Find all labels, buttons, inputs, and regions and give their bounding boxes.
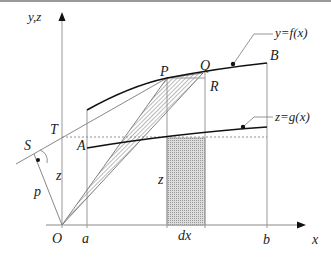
point-B: B [270, 48, 279, 63]
point-A: A [76, 138, 86, 153]
tick-dx: dx [178, 228, 192, 243]
x-axis-arrow-icon [297, 222, 306, 229]
point-Q: Q [200, 58, 210, 73]
diagram-canvas: y,z x O a dx b S T A P Q R B p z z y=f(x… [0, 0, 331, 257]
point-T: T [50, 122, 59, 137]
tick-a: a [82, 231, 89, 246]
strip-area [167, 138, 205, 225]
curve-g-label: z=g(x) [274, 109, 310, 124]
right-angle-arc-icon [40, 150, 47, 163]
curve-g-pointer-icon [241, 125, 245, 129]
label-p: p [33, 184, 41, 199]
curve-f-label: y=f(x) [273, 25, 308, 40]
point-R: R [209, 79, 219, 94]
label-z-strip: z [157, 172, 164, 187]
tick-b: b [263, 232, 270, 247]
y-axis-arrow-icon [59, 12, 66, 21]
label-z-left: z [55, 168, 62, 183]
y-axis-label: y,z [26, 9, 41, 24]
y-axis [59, 12, 66, 228]
right-angle-dot-icon [36, 158, 40, 162]
point-S: S [24, 138, 31, 153]
point-P: P [159, 64, 169, 79]
curve-f-pointer-icon [231, 62, 235, 66]
origin-label: O [52, 231, 62, 246]
x-axis-label: x [311, 232, 319, 247]
